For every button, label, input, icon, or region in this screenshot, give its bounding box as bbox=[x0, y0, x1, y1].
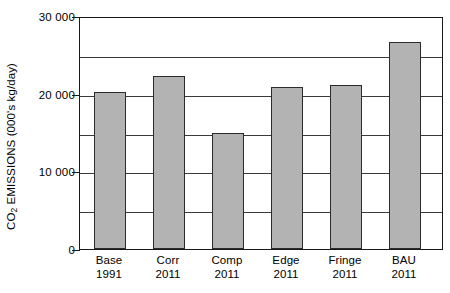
x-label-line2: 2011 bbox=[138, 267, 198, 281]
bar-edge-2011 bbox=[271, 87, 303, 249]
y-tick-label-30000: 30 000 bbox=[39, 11, 75, 23]
x-label-line2: 2011 bbox=[256, 267, 316, 281]
x-label-base-1991: Base 1991 bbox=[79, 253, 139, 281]
x-label-bau-2011: BAU 2011 bbox=[374, 253, 434, 281]
y-tick-label-10000: 10 000 bbox=[39, 166, 75, 178]
x-label-line2: 2011 bbox=[374, 267, 434, 281]
x-label-line1: Corr bbox=[157, 254, 180, 266]
x-label-line1: Comp bbox=[211, 254, 242, 266]
x-label-corr-2011: Corr 2011 bbox=[138, 253, 198, 281]
bar-bau-2011 bbox=[389, 42, 421, 249]
co2-subscript: 2 bbox=[9, 208, 19, 213]
x-label-line1: Fringe bbox=[328, 254, 361, 266]
x-label-line2: 2011 bbox=[315, 267, 375, 281]
x-label-line1: Base bbox=[96, 254, 123, 266]
x-label-line2: 1991 bbox=[79, 267, 139, 281]
x-label-comp-2011: Comp 2011 bbox=[197, 253, 257, 281]
y-tick-label-20000: 20 000 bbox=[39, 89, 75, 101]
y-axis-title: CO2 EMISSIONS (000's kg/day) bbox=[0, 0, 22, 293]
x-label-line1: BAU bbox=[392, 254, 416, 266]
bar-base-1991 bbox=[94, 92, 126, 249]
x-label-edge-2011: Edge 2011 bbox=[256, 253, 316, 281]
plot-area bbox=[79, 17, 443, 250]
bar-fringe-2011 bbox=[330, 85, 362, 249]
x-label-fringe-2011: Fringe 2011 bbox=[315, 253, 375, 281]
x-label-line1: Edge bbox=[272, 254, 299, 266]
bars-layer bbox=[80, 18, 442, 249]
y-axis-title-text: CO2 EMISSIONS (000's kg/day) bbox=[5, 63, 17, 230]
bar-chart: CO2 EMISSIONS (000's kg/day) 30 000 20 0… bbox=[0, 0, 450, 293]
x-label-line2: 2011 bbox=[197, 267, 257, 281]
bar-corr-2011 bbox=[153, 76, 185, 249]
y-tickmark-0 bbox=[72, 250, 80, 251]
bar-comp-2011 bbox=[212, 133, 244, 249]
x-axis-labels: Base 1991 Corr 2011 Comp 2011 Edge 2011 … bbox=[79, 253, 443, 293]
